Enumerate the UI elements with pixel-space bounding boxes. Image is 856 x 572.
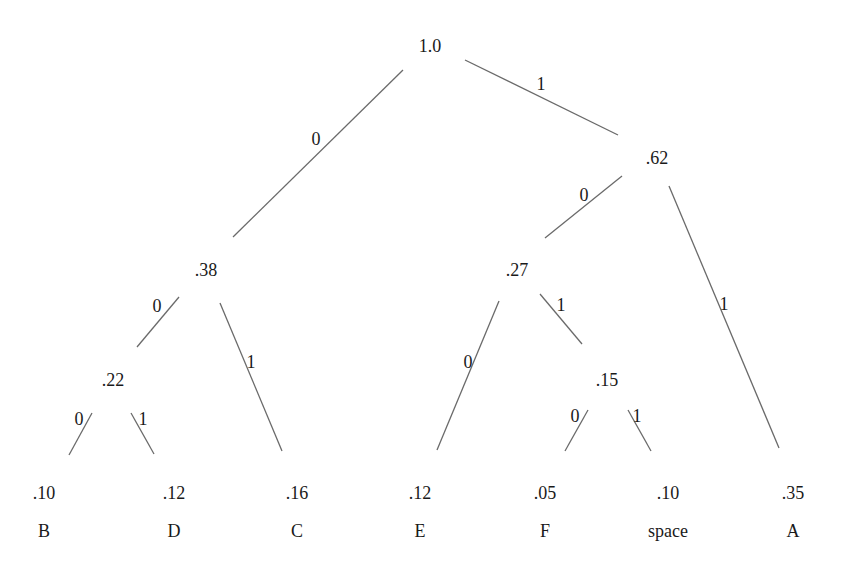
tree-leaves: .10B.12D.16C.12E.05F.10space.35A [33, 483, 805, 541]
edge-bit-label: 1 [633, 406, 642, 426]
leaf-probability: .12 [409, 483, 432, 503]
edge-line [465, 60, 618, 135]
node-probability: .27 [506, 260, 529, 280]
leaf-symbol: B [38, 521, 50, 541]
tree-internal-nodes: 1.0.62.38.27.22.15 [102, 36, 669, 390]
huffman-tree-diagram: 010101010101 1.0.62.38.27.22.15 .10B.12D… [0, 0, 856, 572]
leaf-probability: .10 [33, 483, 56, 503]
node-probability: 1.0 [419, 36, 442, 56]
edge-line [669, 186, 779, 448]
tree-edges: 010101010101 [69, 60, 779, 455]
node-probability: .22 [102, 370, 125, 390]
edge-bit-label: 1 [139, 409, 148, 429]
edge-bit-label: 0 [580, 185, 589, 205]
edge-bit-label: 1 [720, 294, 729, 314]
edge-bit-label: 1 [557, 295, 566, 315]
leaf-symbol: F [540, 521, 550, 541]
edge-line [233, 70, 403, 237]
leaf-symbol: C [291, 521, 303, 541]
node-probability: .62 [646, 148, 669, 168]
leaf-symbol: E [415, 521, 426, 541]
leaf-symbol: D [168, 521, 181, 541]
edge-bit-label: 1 [247, 352, 256, 372]
edge-bit-label: 0 [153, 296, 162, 316]
edge-line [437, 301, 499, 450]
node-probability: .38 [195, 260, 218, 280]
leaf-symbol: space [648, 521, 688, 541]
leaf-probability: .05 [534, 483, 557, 503]
leaf-symbol: A [787, 521, 800, 541]
edge-bit-label: 0 [464, 352, 473, 372]
leaf-probability: .35 [782, 483, 805, 503]
edge-line [220, 303, 282, 451]
leaf-probability: .12 [163, 483, 186, 503]
edge-bit-label: 0 [312, 129, 321, 149]
edge-bit-label: 1 [537, 74, 546, 94]
edge-bit-label: 0 [571, 406, 580, 426]
node-probability: .15 [596, 370, 619, 390]
leaf-probability: .10 [657, 483, 680, 503]
leaf-probability: .16 [286, 483, 309, 503]
edge-bit-label: 0 [75, 409, 84, 429]
